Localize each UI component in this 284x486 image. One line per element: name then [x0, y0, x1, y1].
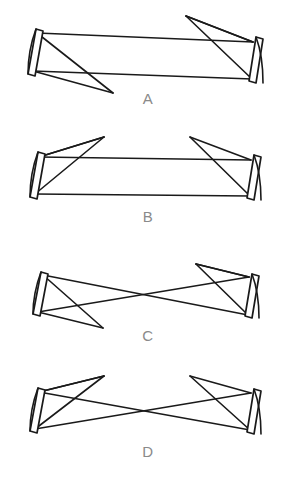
ray-path	[35, 137, 104, 194]
diagram-canvas: ABCD	[0, 0, 284, 486]
panel-label-d: D	[142, 443, 153, 460]
ray-bundle	[35, 137, 251, 196]
ray-path	[38, 277, 249, 312]
ray-path	[39, 137, 104, 157]
ray-bundle	[35, 376, 251, 430]
panel-c: C	[33, 264, 259, 344]
ray-path	[190, 137, 250, 196]
left-mirror	[33, 272, 48, 316]
ray-path	[39, 157, 251, 160]
panel-b: B	[30, 137, 261, 225]
ray-path	[33, 71, 252, 79]
ray-path	[186, 16, 253, 42]
left-mirror	[28, 29, 43, 76]
ray-path	[190, 137, 251, 160]
ray-bundle	[33, 16, 253, 93]
panel-label-c: C	[142, 327, 153, 344]
optical-resonator-figure: ABCD	[0, 0, 284, 486]
ray-path	[196, 264, 249, 277]
ray-path	[186, 16, 252, 79]
left-mirror	[30, 388, 45, 433]
left-mirror	[30, 152, 45, 199]
ray-bundle	[38, 264, 249, 328]
panel-label-b: B	[143, 208, 154, 225]
ray-path	[196, 264, 248, 315]
ray-path	[37, 33, 113, 93]
panels-group: ABCD	[28, 16, 263, 460]
ray-path	[33, 71, 113, 93]
right-mirror	[247, 389, 261, 434]
right-mirror	[249, 37, 263, 83]
ray-path	[43, 275, 248, 315]
panel-label-a: A	[143, 90, 154, 107]
right-mirror	[247, 155, 261, 200]
right-mirror	[245, 274, 259, 318]
panel-a: A	[28, 16, 263, 107]
ray-path	[37, 33, 253, 42]
panel-d: D	[30, 376, 261, 460]
ray-path	[35, 194, 250, 196]
